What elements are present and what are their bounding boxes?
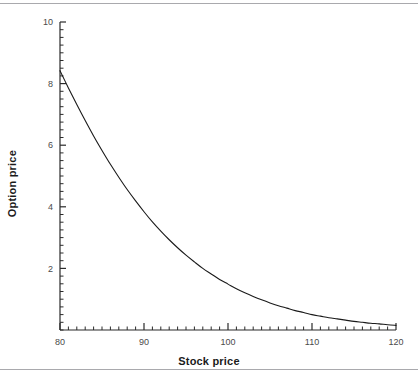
- y-tick-label: 6: [48, 140, 53, 150]
- tick-labels-group: 2468108090100110120: [43, 17, 404, 347]
- figure-page: 2468108090100110120 Option price Stock p…: [0, 0, 418, 383]
- y-tick-label: 10: [43, 17, 53, 27]
- x-tick-label: 80: [55, 337, 65, 347]
- top-divider-rule: [0, 3, 418, 4]
- y-tick-label: 2: [48, 264, 53, 274]
- x-tick-label: 90: [139, 337, 149, 347]
- x-tick-label: 100: [220, 337, 235, 347]
- chart-plot-area: 2468108090100110120: [0, 8, 418, 366]
- data-series-line: [60, 71, 396, 326]
- x-tick-label: 120: [388, 337, 403, 347]
- y-tick-label: 8: [48, 79, 53, 89]
- bottom-divider-rule: [0, 369, 418, 370]
- x-tick-label: 110: [305, 337, 319, 347]
- y-tick-label: 4: [48, 202, 53, 212]
- y-axis-title: Option price: [6, 150, 18, 217]
- option-price-chart: 2468108090100110120 Option price Stock p…: [0, 8, 418, 366]
- x-axis-title: Stock price: [0, 355, 418, 367]
